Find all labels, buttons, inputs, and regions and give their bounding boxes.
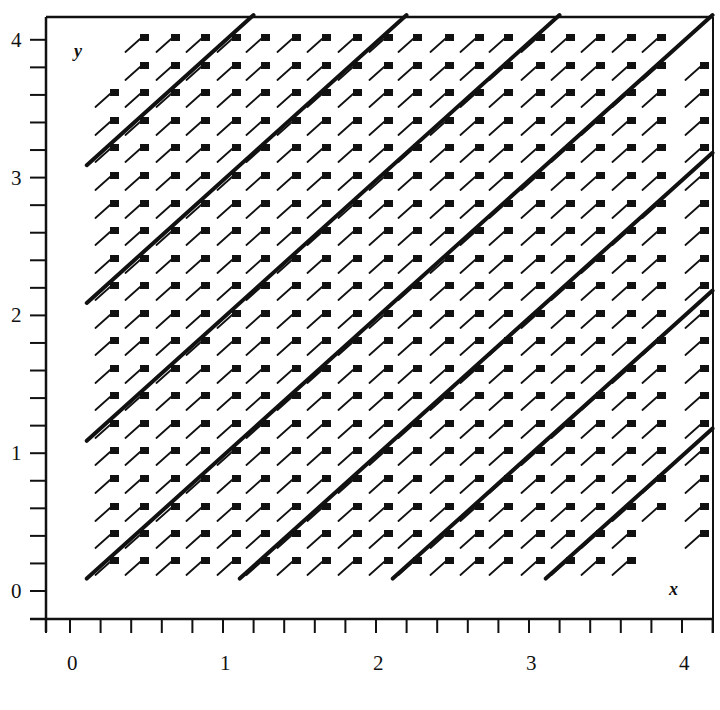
arrow-head-square [232, 62, 241, 69]
slope-arrow [338, 365, 362, 383]
arrow-head-square [475, 475, 484, 482]
arrow-shaft [186, 260, 201, 273]
slope-arrow [217, 337, 241, 355]
arrow-head-square [322, 200, 331, 207]
arrow-shaft [369, 149, 384, 162]
arrow-head-square [384, 144, 393, 151]
slope-arrow [521, 475, 545, 493]
arrow-shaft [460, 425, 475, 438]
arrow-head-square [445, 172, 454, 179]
arrow-head-square [657, 420, 666, 427]
arrow-head-square [171, 62, 180, 69]
slope-arrow [430, 447, 454, 465]
arrow-shaft [338, 260, 353, 273]
slope-arrow [95, 310, 119, 328]
slope-arrow [581, 62, 605, 80]
arrow-head-square [171, 392, 180, 399]
arrow-head-square [322, 557, 331, 564]
arrow-shaft [186, 315, 201, 328]
arrow-shaft [217, 122, 232, 135]
slope-arrow [307, 282, 331, 300]
arrow-head-square [445, 365, 454, 372]
slope-arrow [217, 89, 241, 107]
arrow-shaft [430, 94, 445, 107]
arrow-head-square [413, 310, 422, 317]
arrow-shaft [460, 342, 475, 355]
slope-arrow [460, 447, 484, 465]
arrow-head-square [171, 144, 180, 151]
arrow-shaft [277, 177, 292, 190]
arrow-shaft [398, 232, 413, 245]
arrow-shaft [398, 370, 413, 383]
arrow-shaft [338, 39, 353, 52]
arrow-shaft [612, 535, 627, 548]
arrow-shaft [581, 149, 596, 162]
arrow-shaft [338, 508, 353, 521]
slope-arrow [612, 117, 636, 135]
arrow-shaft [246, 232, 261, 245]
arrow-shaft [338, 177, 353, 190]
slope-arrow [460, 530, 484, 548]
arrow-head-square [413, 475, 422, 482]
arrow-shaft [338, 232, 353, 245]
arrow-head-square [627, 144, 636, 151]
arrow-head-square [322, 420, 331, 427]
x-tick-label: 4 [679, 651, 690, 675]
arrow-head-square [596, 200, 605, 207]
arrow-head-square [322, 144, 331, 151]
arrow-shaft [246, 508, 261, 521]
arrow-shaft [217, 67, 232, 80]
arrow-shaft [125, 562, 140, 575]
arrow-shaft [186, 287, 201, 300]
slope-arrow [521, 530, 545, 548]
arrow-head-square [627, 557, 636, 564]
arrow-head-square [201, 365, 210, 372]
slope-arrow [398, 34, 422, 52]
arrow-shaft [685, 342, 700, 355]
arrow-shaft [612, 205, 627, 218]
slope-arrow [489, 310, 513, 328]
arrow-head-square [261, 117, 270, 124]
arrow-head-square [322, 117, 331, 124]
arrow-shaft [489, 370, 504, 383]
arrow-head-square [232, 557, 241, 564]
arrow-head-square [261, 503, 270, 510]
arrow-head-square [261, 530, 270, 537]
slope-arrow [581, 557, 605, 575]
slope-arrow [186, 144, 210, 162]
arrow-head-square [413, 530, 422, 537]
arrow-head-square [566, 227, 575, 234]
arrow-head-square [171, 255, 180, 262]
arrow-shaft [125, 232, 140, 245]
arrow-shaft [685, 315, 700, 328]
arrow-head-square [353, 282, 362, 289]
arrow-head-square [413, 255, 422, 262]
slope-arrow [685, 365, 709, 383]
arrow-head-square [445, 62, 454, 69]
arrow-shaft [246, 370, 261, 383]
arrow-shaft [581, 370, 596, 383]
slope-field [95, 34, 709, 575]
arrow-shaft [642, 452, 657, 465]
arrow-head-square [322, 337, 331, 344]
arrow-head-square [232, 337, 241, 344]
arrow-shaft [125, 39, 140, 52]
arrow-shaft [551, 67, 566, 80]
arrow-head-square [292, 200, 301, 207]
slope-arrow [156, 392, 180, 410]
arrow-shaft [642, 232, 657, 245]
slope-arrow [430, 557, 454, 575]
arrow-head-square [566, 62, 575, 69]
arrow-head-square [384, 62, 393, 69]
arrow-head-square [292, 89, 301, 96]
slope-arrow [186, 227, 210, 245]
slope-arrow [685, 255, 709, 273]
arrow-shaft [125, 205, 140, 218]
arrow-head-square [201, 310, 210, 317]
arrow-head-square [596, 475, 605, 482]
arrow-shaft [460, 67, 475, 80]
slope-arrow [642, 392, 666, 410]
slope-arrow [338, 117, 362, 135]
arrow-head-square [261, 172, 270, 179]
slope-arrow [581, 365, 605, 383]
